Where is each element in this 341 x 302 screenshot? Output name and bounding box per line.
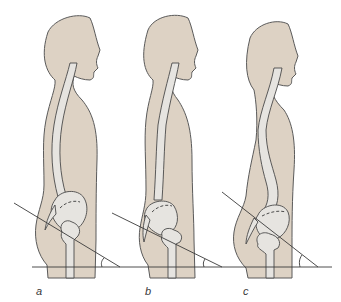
figure-c: [222, 22, 318, 278]
posture-diagram: .skin { fill: #ddd2c4; stroke: #5a5a5a; …: [0, 0, 341, 302]
angle-arc-b: [203, 259, 205, 267]
panel-label-c: c: [243, 285, 249, 297]
figure-a: [14, 16, 120, 278]
panel-label-a: a: [36, 285, 42, 297]
angle-arc-a: [101, 258, 104, 267]
angle-arc-c: [299, 255, 302, 267]
figure-b: [112, 15, 222, 278]
panel-label-b: b: [145, 285, 151, 297]
